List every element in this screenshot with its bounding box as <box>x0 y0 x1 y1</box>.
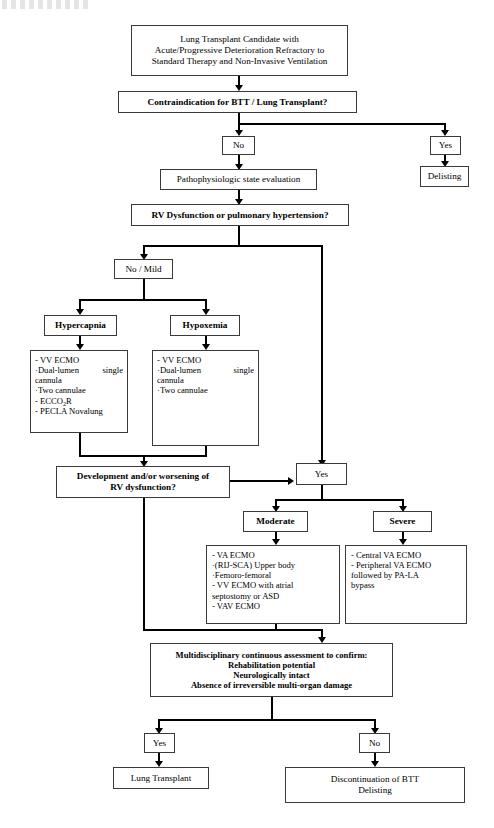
edge-devyes-stem <box>321 485 323 500</box>
treatment-item: ·Dual-lumen single <box>35 365 125 375</box>
page-top-artifact <box>2 0 88 9</box>
treatment-text: VV ECMO <box>162 355 201 365</box>
node-discontinuation: Discontinuation of BTT Delisting <box>285 767 465 803</box>
node-severe: Severe <box>373 511 432 532</box>
node-contra-no-label: No <box>233 140 244 151</box>
node-development-line-1: Development and/or worsening of <box>77 471 209 482</box>
node-moderate-treatments: - VA ECMO ·(RIJ-SCA) Upper body ·Femoro-… <box>206 545 340 624</box>
treatment-item: ·(RIJ-SCA) Upper body <box>212 560 295 570</box>
treatment-item: - ECCO2R <box>35 396 72 407</box>
node-final-no-label: No <box>369 738 380 749</box>
arrow-development-to-yes <box>288 477 294 485</box>
treatment-item: ·Two cannulae <box>157 385 208 395</box>
treatment-item-continuation: followed by PA-LA <box>351 570 419 580</box>
node-discontinuation-line-1: Discontinuation of BTT <box>331 774 419 785</box>
treatment-text-right: single <box>233 365 254 375</box>
node-lung-transplant-label: Lung Transplant <box>131 773 192 784</box>
treatment-text-left: Dual-lumen <box>160 365 201 375</box>
flowchart-canvas: Lung Transplant Candidate with Acute/Pro… <box>0 0 494 828</box>
treatment-item: ·Dual-lumen single <box>157 365 256 375</box>
node-start-line-2: Acute/Progressive Deterioration Refracto… <box>155 45 325 56</box>
edge-nomild-split-bar <box>79 299 207 301</box>
treatment-text: VV ECMO <box>40 355 79 365</box>
treatment-item: ·Two cannulae <box>35 385 86 395</box>
treatment-item: - VV ECMO <box>157 355 201 365</box>
node-contra-yes: Yes <box>430 136 461 155</box>
node-development-yes-label: Yes <box>315 469 328 480</box>
node-moderate: Moderate <box>243 511 308 532</box>
node-hypoxemia-label: Hypoxemia <box>183 320 228 331</box>
assessment-line-3: Neurologically intact <box>233 670 309 680</box>
node-delisting: Delisting <box>420 166 469 187</box>
node-hypoxemia: Hypoxemia <box>170 315 240 336</box>
treatment-item: - PECLA Novalung <box>35 406 103 416</box>
node-development-worsening: Development and/or worsening of RV dysfu… <box>56 466 230 498</box>
node-contraindication: Contraindication for BTT / Lung Transpla… <box>118 91 357 113</box>
treatment-text: Two cannulae <box>160 385 208 395</box>
treatment-item: - Peripheral VA ECMO <box>351 560 431 570</box>
edge-development-to-assessment-horizontal <box>143 629 323 631</box>
bullet-dash: - <box>35 355 38 365</box>
node-final-yes-label: Yes <box>153 738 166 749</box>
node-hypercapnia-label: Hypercapnia <box>55 320 106 331</box>
node-contraindication-label: Contraindication for BTT / Lung Transpla… <box>148 97 328 108</box>
edge-devyes-split-bar <box>275 499 404 501</box>
edge-moderate-tx-to-assessment <box>275 624 277 630</box>
node-no-mild: No / Mild <box>114 259 173 279</box>
treatment-item: - VAV ECMO <box>212 601 260 611</box>
treatment-item: - VV ECMO with atrial <box>212 580 293 590</box>
node-final-no: No <box>359 733 390 753</box>
assessment-line-2: Rehabilitation potential <box>228 660 315 670</box>
node-moderate-label: Moderate <box>256 516 294 527</box>
treatment-text: ·Dual-lumen <box>35 365 79 375</box>
edge-assessment-stem <box>271 697 273 720</box>
treatment-item-continuation: cannula <box>35 375 62 385</box>
node-severe-label: Severe <box>390 516 416 527</box>
treatment-item: - VA ECMO <box>212 550 255 560</box>
node-patho-eval: Pathophysiologic state evaluation <box>160 169 317 190</box>
treatment-text: ECCO <box>40 396 63 406</box>
treatment-text: PECLA Novalung <box>40 406 103 416</box>
treatment-item: ·Femoro-femoral <box>212 570 271 580</box>
node-multidisciplinary-assessment: Multidisciplinary continuous assessment … <box>150 643 393 697</box>
node-contra-yes-label: Yes <box>439 140 452 151</box>
edge-development-to-assessment-vertical <box>143 498 145 630</box>
treatment-text-left: Dual-lumen <box>38 365 79 375</box>
bullet-dash: - <box>157 355 160 365</box>
node-hypercapnia: Hypercapnia <box>44 315 117 336</box>
assessment-line-1: Multidisciplinary continuous assessment … <box>176 650 368 660</box>
node-hypercapnia-treatments: - VV ECMO ·Dual-lumen single cannula ·Tw… <box>30 350 128 433</box>
treatment-item: - VV ECMO <box>35 355 79 365</box>
node-delisting-label: Delisting <box>428 171 462 182</box>
edge-rv-to-dev-yes <box>321 245 323 462</box>
bullet-dash: - <box>35 396 38 406</box>
assessment-line-4: Absence of irreversible multi-organ dama… <box>191 680 352 690</box>
node-patho-eval-label: Pathophysiologic state evaluation <box>177 174 301 185</box>
node-hypoxemia-treatments: - VV ECMO ·Dual-lumen single cannula ·Tw… <box>152 350 259 446</box>
edge-contraindication-split-bar <box>238 123 446 125</box>
node-start-line-1: Lung Transplant Candidate with <box>180 34 299 45</box>
edge-hypercapnia-tx-to-development <box>79 433 81 456</box>
node-final-yes: Yes <box>144 733 175 753</box>
treatment-text-after: R <box>66 396 72 406</box>
edge-development-to-yes <box>230 480 290 482</box>
node-development-yes: Yes <box>296 463 347 485</box>
node-start: Lung Transplant Candidate with Acute/Pro… <box>131 25 348 76</box>
edge-rv-stem <box>238 226 240 246</box>
treatment-text: ·Dual-lumen <box>157 365 201 375</box>
node-start-line-3: Standard Therapy and Non-Invasive Ventil… <box>152 56 328 67</box>
node-rv-decision-label: RV Dysfunction or pulmonary hypertension… <box>152 210 329 221</box>
treatment-item-continuation: bypass <box>351 580 374 590</box>
treatment-item-continuation: septostomy or ASD <box>212 591 279 601</box>
node-discontinuation-line-2: Delisting <box>358 785 392 796</box>
node-lung-transplant: Lung Transplant <box>113 767 209 789</box>
edge-nomild-stem <box>143 279 145 300</box>
node-contra-no: No <box>222 136 255 155</box>
node-development-line-2: RV dysfunction? <box>110 482 176 493</box>
bullet-dash: - <box>35 406 38 416</box>
node-rv-decision: RV Dysfunction or pulmonary hypertension… <box>131 204 349 226</box>
node-no-mild-label: No / Mild <box>125 264 161 275</box>
treatment-item: - Central VA ECMO <box>351 550 421 560</box>
node-severe-treatments: - Central VA ECMO - Peripheral VA ECMO f… <box>345 545 467 624</box>
treatment-text: Two cannulae <box>38 385 86 395</box>
